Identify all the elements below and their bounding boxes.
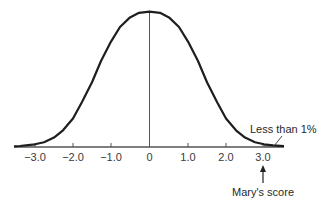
tick-label: 2.0 bbox=[218, 151, 233, 163]
tail-pointer-line bbox=[274, 136, 282, 146]
tick-label: −2.0 bbox=[62, 151, 84, 163]
tick-label: 1.0 bbox=[180, 151, 195, 163]
marys-score-label: Mary's score bbox=[232, 186, 294, 198]
tick-label: −1.0 bbox=[100, 151, 122, 163]
tick-labels: −3.0 −2.0 −1.0 0 1.0 2.0 3.0 bbox=[24, 151, 271, 163]
normal-distribution-chart: −3.0 −2.0 −1.0 0 1.0 2.0 3.0 Less than 1… bbox=[0, 0, 325, 208]
tick-label: 3.0 bbox=[255, 151, 270, 163]
tail-annotation: Less than 1% bbox=[250, 123, 317, 135]
arrow-up-icon bbox=[260, 165, 266, 183]
tick-label: 0 bbox=[146, 151, 152, 163]
tick-label: −3.0 bbox=[24, 151, 46, 163]
